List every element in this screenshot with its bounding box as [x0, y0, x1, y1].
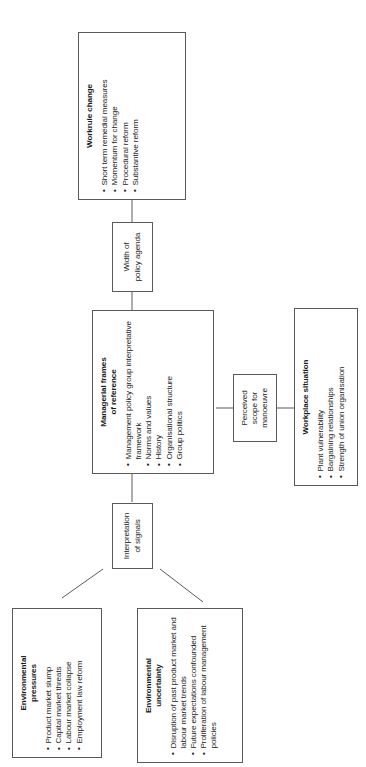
list-item: Capital market threats — [54, 616, 64, 750]
list-item: Group politics — [175, 318, 185, 466]
node-managerial-frames-title: Managerial frames of reference — [99, 318, 119, 466]
node-workrule-change-bullets: Short term remedial measures Momentum fo… — [100, 40, 141, 192]
node-interpretation-of-signals-label: Interpretation of signals — [122, 513, 142, 559]
node-environmental-uncertainty-title: Environmental uncertainty — [144, 616, 164, 755]
node-perceived-scope-label: Perceived scope for manoeuvre — [240, 388, 270, 428]
list-item: Bargaining relationships — [326, 316, 336, 478]
node-width-of-policy-agenda-label: Width of policy agenda — [122, 233, 142, 282]
list-item: Strength of union organisation — [337, 316, 347, 478]
edge-interp-to-pressures — [62, 569, 103, 598]
node-workplace-situation[interactable]: Workplace situation Plant vulnerability … — [294, 308, 358, 486]
list-item: Management policy group interpretative f… — [124, 318, 144, 466]
list-item: Plant vulnerability — [316, 316, 326, 478]
list-item: Proliferation of labour management polic… — [199, 616, 219, 755]
list-item: Norms and values — [144, 318, 154, 466]
node-environmental-pressures[interactable]: Environmental pressures Product market s… — [12, 608, 102, 758]
list-item: Momentum for change — [110, 40, 120, 192]
node-width-of-policy-agenda[interactable]: Width of policy agenda — [112, 222, 153, 292]
list-item: Organisational structure — [165, 318, 175, 466]
node-workplace-situation-title: Workplace situation — [301, 316, 311, 478]
edge-interp-to-uncertainty — [160, 569, 203, 602]
node-managerial-frames-of-reference[interactable]: Managerial frames of reference Managemen… — [92, 310, 214, 474]
list-item: Future expectations confounded — [189, 616, 199, 755]
node-workplace-situation-bullets: Plant vulnerability Bargaining relations… — [316, 316, 347, 478]
list-item: Disruption of past product market and la… — [169, 616, 189, 755]
node-workrule-change-title: Workrule change — [85, 40, 95, 192]
node-environmental-uncertainty-bullets: Disruption of past product market and la… — [169, 616, 219, 755]
list-item: History — [154, 318, 164, 466]
list-item: Procedural reform — [121, 40, 131, 192]
diagram-canvas: Workrule change Short term remedial meas… — [0, 0, 366, 767]
list-item: Product market slump — [44, 616, 54, 750]
node-environmental-pressures-title: Environmental pressures — [19, 616, 39, 750]
list-item: Employment law reform — [75, 616, 85, 750]
list-item: Labour market collapse — [64, 616, 74, 750]
node-interpretation-of-signals[interactable]: Interpretation of signals — [112, 503, 153, 569]
list-item: Short term remedial measures — [100, 40, 110, 192]
node-environmental-pressures-bullets: Product market slump Capital market thre… — [44, 616, 85, 750]
node-workrule-change[interactable]: Workrule change Short term remedial meas… — [78, 32, 186, 200]
node-perceived-scope-for-manoeuvre[interactable]: Perceived scope for manoeuvre — [233, 374, 277, 442]
node-managerial-frames-bullets: Management policy group interpretative f… — [124, 318, 185, 466]
node-environmental-uncertainty[interactable]: Environmental uncertainty Disruption of … — [137, 608, 243, 763]
list-item: Substantive reform — [131, 40, 141, 192]
